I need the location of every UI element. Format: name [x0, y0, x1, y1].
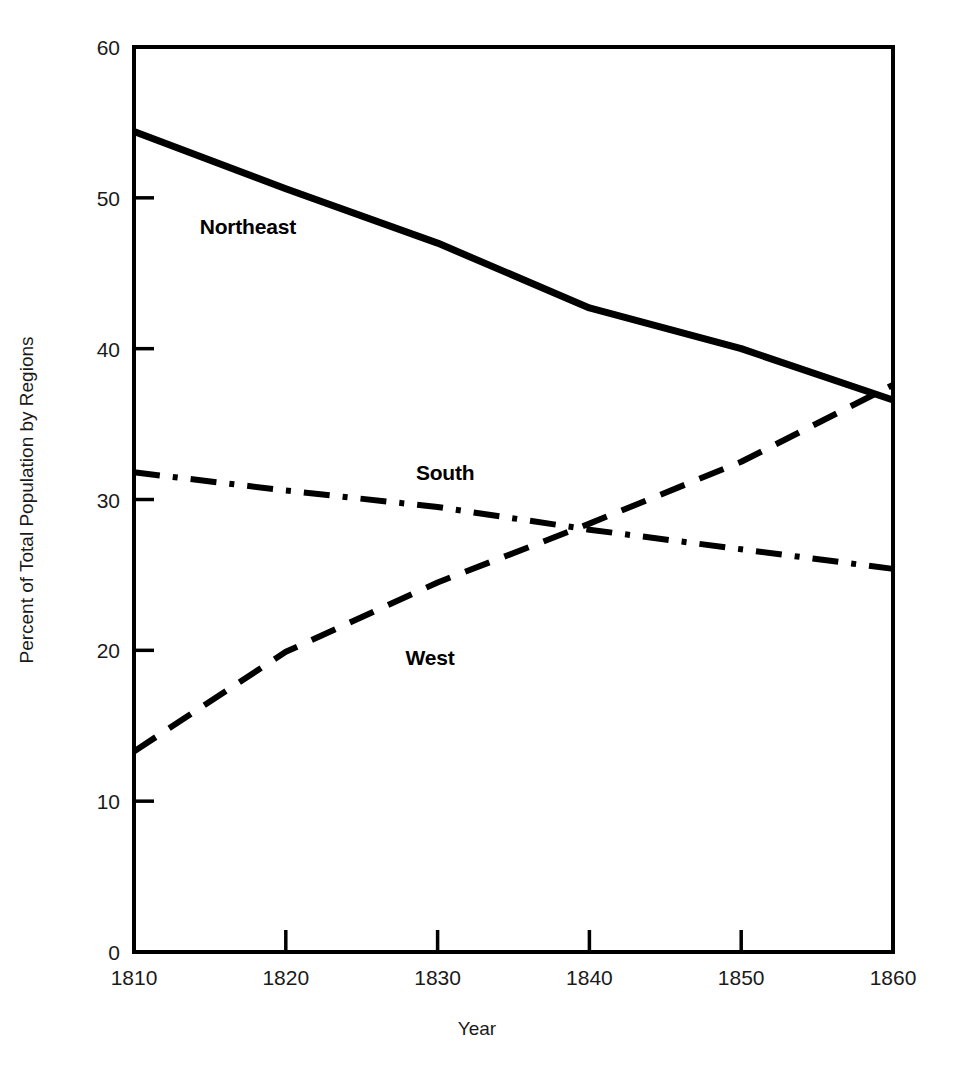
y-axis-title: Percent of Total Population by Regions: [16, 336, 37, 663]
chart-canvas: 0102030405060 181018201830184018501860 N…: [0, 0, 957, 1070]
x-tick-label: 1850: [718, 966, 765, 989]
x-axis-title: Year: [458, 1018, 497, 1039]
plot-frame: [134, 47, 893, 952]
x-tick-label: 1820: [262, 966, 309, 989]
x-tick-label: 1810: [111, 966, 158, 989]
x-axis-ticks: [286, 930, 741, 952]
series-line-northeast: [134, 131, 893, 399]
y-tick-label: 0: [108, 941, 120, 964]
y-tick-label: 60: [97, 36, 120, 59]
x-tick-label: 1830: [414, 966, 461, 989]
x-tick-label: 1860: [870, 966, 917, 989]
y-tick-label: 40: [97, 338, 120, 361]
series-label-west: West: [406, 646, 455, 669]
y-tick-label: 20: [97, 639, 120, 662]
x-axis-tick-labels: 181018201830184018501860: [111, 966, 917, 989]
y-axis-tick-labels: 0102030405060: [97, 36, 120, 964]
series-label-south: South: [416, 461, 474, 484]
y-tick-label: 50: [97, 187, 120, 210]
y-tick-label: 10: [97, 790, 120, 813]
chart-figure: 0102030405060 181018201830184018501860 N…: [0, 0, 957, 1070]
y-tick-label: 30: [97, 489, 120, 512]
series-line-west: [134, 385, 893, 752]
y-axis-ticks: [134, 198, 154, 801]
series-label-northeast: Northeast: [200, 215, 296, 238]
x-tick-label: 1840: [566, 966, 613, 989]
series-label-group: NortheastSouthWest: [200, 215, 475, 669]
